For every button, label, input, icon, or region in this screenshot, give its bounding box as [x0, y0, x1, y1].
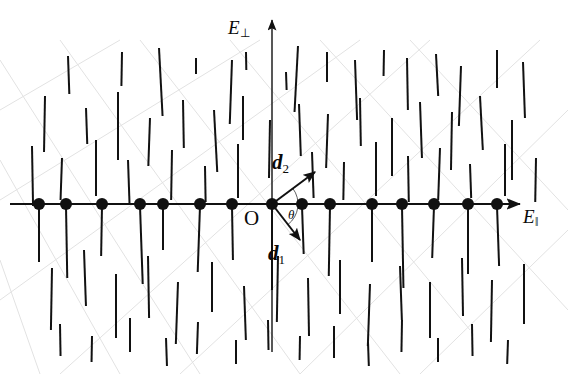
axis-lattice-site	[396, 198, 408, 210]
dipole-segment	[68, 56, 69, 94]
dipole-segment	[286, 72, 287, 90]
axis-lattice-site	[33, 198, 45, 210]
dipole-segment	[523, 62, 525, 118]
dipole-segment	[401, 320, 402, 352]
horizontal-axis-label: E‖	[523, 207, 538, 228]
dipole-segment	[436, 54, 438, 96]
dipole-segment	[470, 164, 471, 198]
dipole-segment	[326, 114, 328, 168]
dipole-lattice-figure: E⊥ E‖ O d2 d1 θ	[0, 0, 568, 374]
dipole-vectors-layer	[272, 172, 315, 240]
vector-d1-symbol: d	[268, 241, 279, 265]
dipole-segment	[343, 162, 344, 200]
dipole-segment	[268, 320, 269, 350]
horizontal-axis-label-symbol: E	[523, 206, 535, 227]
axis-lattice-site	[366, 198, 378, 210]
dipole-segment	[183, 100, 184, 148]
lattice-grid-line	[300, 110, 568, 374]
dipole-segment	[171, 150, 172, 200]
dipole-segment	[402, 206, 403, 288]
axis-lattice-site	[194, 198, 206, 210]
dipole-segment	[295, 46, 298, 112]
axis-lattice-site	[96, 198, 108, 210]
dipole-segment	[507, 340, 508, 364]
dipole-segment	[198, 206, 200, 272]
dipole-segment	[66, 206, 67, 278]
dipole-segment	[497, 206, 499, 266]
dipole-segment	[140, 206, 143, 284]
dipole-segment	[101, 206, 102, 256]
horizontal-axis-label-subscript: ‖	[535, 215, 538, 229]
dipole-segment	[407, 58, 408, 110]
axis-lattice-site	[60, 198, 72, 210]
dipole-segment	[61, 158, 62, 200]
dipole-segment	[244, 286, 246, 340]
lattice-grid-line	[420, 230, 568, 374]
vertical-axis-label-subscript: ⊥	[240, 26, 250, 40]
dipole-segment	[197, 322, 198, 354]
dipole-segment	[121, 52, 122, 86]
vector-d1-arrow	[272, 204, 300, 240]
diagram-canvas	[0, 0, 568, 374]
axis-lattice-site	[226, 198, 238, 210]
lattice-grid-line	[60, 40, 300, 374]
lattice-grid-line	[0, 40, 260, 200]
dipole-segment	[51, 268, 52, 330]
dipole-segment	[432, 206, 434, 258]
dipole-segment	[86, 108, 87, 144]
lattice-grid-line	[0, 40, 120, 110]
origin-label: O	[244, 208, 259, 229]
dipole-segment	[368, 284, 370, 346]
dipole-segment	[451, 112, 452, 170]
vector-d1-subscript: 1	[279, 252, 286, 267]
vector-d2-label: d2	[272, 152, 289, 175]
dipole-segment	[462, 258, 463, 316]
dipole-segment	[480, 96, 483, 150]
dipole-segment	[148, 256, 149, 318]
dipole-segment	[148, 118, 150, 166]
axis-lattice-site	[134, 198, 146, 210]
lattice-grid-line	[230, 40, 470, 330]
dipole-segment	[44, 96, 45, 152]
axis-lattice-site	[157, 198, 169, 210]
dipole-segment	[360, 98, 361, 146]
angle-theta-label: θ	[288, 208, 294, 221]
dipole-segment	[214, 110, 217, 172]
dipole-segment	[176, 282, 178, 344]
vector-d2-subscript: 2	[283, 161, 290, 176]
vector-d2-symbol: d	[272, 150, 283, 174]
dipole-segment	[355, 60, 357, 120]
dipole-segment	[329, 206, 330, 276]
dipole-segment	[368, 342, 369, 366]
lattice-grid-line	[320, 40, 568, 310]
dipole-segment	[472, 324, 473, 356]
dipole-segment	[84, 250, 86, 306]
dipole-segment	[459, 66, 461, 126]
lattice-grid-line	[410, 40, 568, 210]
lattice-grid-line	[0, 60, 200, 374]
axis-lattice-site	[491, 198, 503, 210]
vertical-axis-label: E⊥	[228, 18, 250, 39]
lattice-grid-lines	[0, 40, 568, 374]
dipole-segment	[230, 60, 232, 124]
dipole-segment	[32, 146, 33, 206]
axis-lattice-sites-layer	[33, 198, 503, 210]
dipole-segment	[408, 156, 409, 202]
axis-lattice-site	[324, 198, 336, 210]
dipole-segment	[491, 280, 492, 342]
axis-lattice-site	[462, 198, 474, 210]
dipole-segment	[166, 338, 167, 366]
dipole-segment	[128, 160, 130, 204]
dipole-segment	[269, 120, 270, 178]
vector-d1-label: d1	[268, 243, 285, 266]
dipole-segment	[205, 166, 206, 202]
dipole-segment	[299, 104, 301, 156]
dipole-segment	[232, 206, 233, 260]
dipole-segment	[308, 278, 309, 336]
dipole-segment	[438, 148, 440, 200]
dipole-segment	[60, 324, 61, 356]
lattice-grid-line	[0, 260, 40, 374]
dipole-segment	[302, 206, 304, 254]
dipole-segment	[159, 48, 163, 116]
vertical-axis-label-symbol: E	[228, 17, 240, 38]
